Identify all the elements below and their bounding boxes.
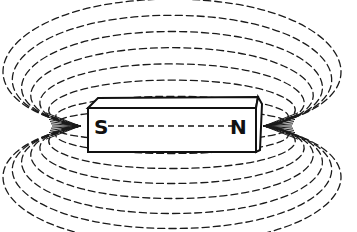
south-pole-label: S (94, 115, 108, 139)
north-pole-label: N (230, 115, 247, 139)
magnet-top-face (88, 97, 258, 108)
bar-magnet: S N (88, 97, 262, 152)
magnet-field-diagram: S N (0, 0, 357, 232)
